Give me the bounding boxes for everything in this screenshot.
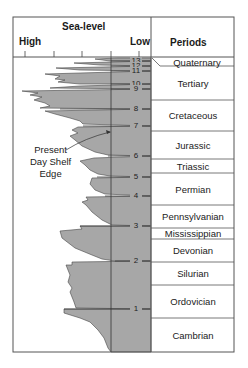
sequence-marker: 5 <box>130 173 142 181</box>
sequence-marker: 7 <box>130 122 142 130</box>
sequence-marker: 9 <box>130 85 142 93</box>
high-label: High <box>19 36 41 47</box>
period-devonian: Devonian <box>152 239 234 262</box>
period-quaternary: Quaternary <box>160 57 234 67</box>
sea-level-title: Sea-level <box>62 21 105 32</box>
sequence-marker: 8 <box>130 105 142 113</box>
period-cretaceous: Cretaceous <box>152 100 234 131</box>
period-mississippian: Mississippian <box>152 228 234 239</box>
period-ordovician: Ordovician <box>152 285 234 318</box>
callout-line-1: Present <box>30 144 71 156</box>
callout-line-2: Day Shelf <box>30 156 71 168</box>
callout-line-3: Edge <box>30 168 71 180</box>
period-silurian: Silurian <box>152 262 234 285</box>
sequence-marker: 2 <box>130 257 142 265</box>
period-jurassic: Jurassic <box>152 131 234 159</box>
shelf-edge-callout: Present Day Shelf Edge <box>30 144 71 180</box>
period-permian: Permian <box>152 173 234 205</box>
period-cambrian: Cambrian <box>152 318 234 352</box>
periods-header: Periods <box>170 37 207 48</box>
sequence-marker: 3 <box>130 222 142 230</box>
sequence-marker: 1 <box>130 305 142 313</box>
period-pennsylvanian: Pennsylvanian <box>152 205 234 228</box>
period-tertiary: Tertiary <box>152 67 234 100</box>
sequence-marker: 11 <box>130 67 142 75</box>
axis-ticks <box>25 51 139 57</box>
sequence-marker: 6 <box>130 152 142 160</box>
sequence-marker: 4 <box>130 192 142 200</box>
low-label: Low <box>130 36 150 47</box>
period-triassic: Triassic <box>152 159 234 173</box>
